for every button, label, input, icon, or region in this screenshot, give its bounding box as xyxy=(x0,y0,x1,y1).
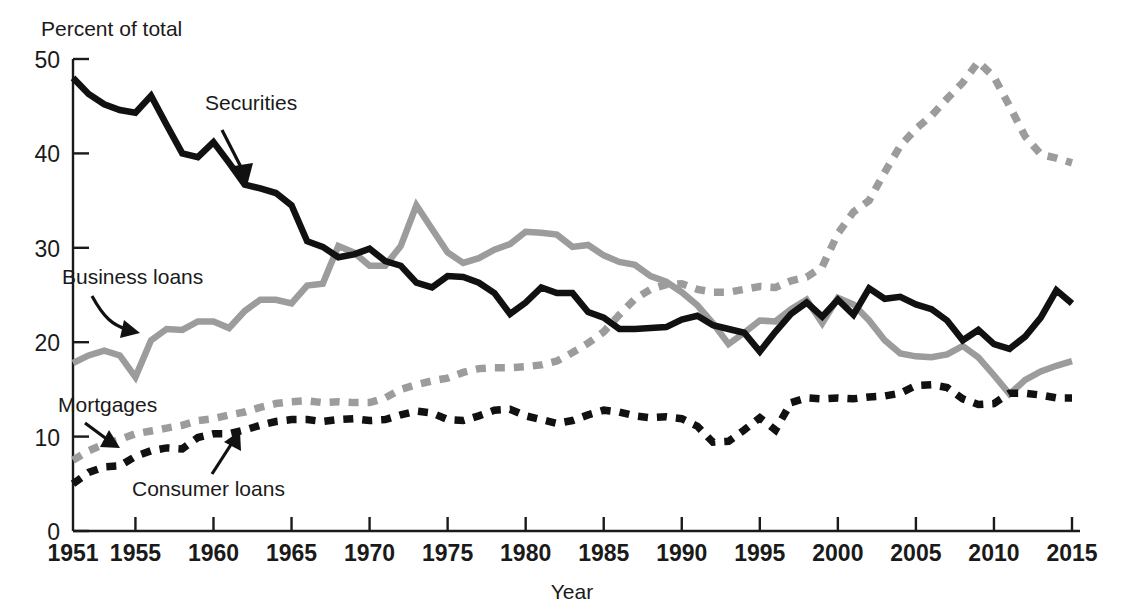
series-line-mortgages xyxy=(73,62,1072,460)
annotation-label-consumer-loans: Consumer loans xyxy=(132,477,285,500)
y-tick-label: 30 xyxy=(34,236,60,262)
x-tick-label: 1960 xyxy=(188,540,239,566)
x-tick-label: 2005 xyxy=(890,540,941,566)
x-tick-label: 1970 xyxy=(344,540,395,566)
x-tick-label: 1980 xyxy=(500,540,551,566)
y-tick-label: 40 xyxy=(34,141,60,167)
business-loans-arrow-stem xyxy=(92,296,126,329)
annotation-label-mortgages: Mortgages xyxy=(58,393,157,416)
x-axis-title: Year xyxy=(551,580,593,603)
x-tick-label: 2015 xyxy=(1046,540,1097,566)
series-line-business-loans xyxy=(73,205,1072,394)
y-tick-label: 50 xyxy=(34,47,60,73)
annotation-label-securities: Securities xyxy=(205,91,297,114)
y-tick-label: 20 xyxy=(34,330,60,356)
x-tick-label: 2010 xyxy=(968,540,1019,566)
x-tick-label: 2000 xyxy=(812,540,863,566)
chart-figure: Percent of total 01020304050 19511955196… xyxy=(0,0,1135,615)
y-axis-title: Percent of total xyxy=(41,17,182,40)
series-line-consumer-loans xyxy=(73,385,1072,484)
x-axis-ticks: 1951195519601965197019751980198519901995… xyxy=(47,517,1097,566)
business-loans-arrow-head xyxy=(120,320,140,338)
x-tick-label: 1965 xyxy=(266,540,317,566)
y-tick-label: 10 xyxy=(34,425,60,451)
data-series-group xyxy=(73,62,1072,484)
x-tick-label: 1975 xyxy=(422,540,473,566)
consumer-loans-arrow-stem xyxy=(212,443,232,474)
x-tick-label: 1951 xyxy=(47,540,98,566)
annotation-arrows xyxy=(85,130,253,474)
x-tick-label: 1990 xyxy=(656,540,707,566)
chart-canvas: Percent of total 01020304050 19511955196… xyxy=(0,0,1135,615)
annotation-labels: SecuritiesBusiness loansMortgagesConsume… xyxy=(58,91,297,500)
x-tick-label: 1995 xyxy=(734,540,785,566)
mortgages-arrow-head xyxy=(100,430,120,448)
x-tick-label: 1985 xyxy=(578,540,629,566)
annotation-label-business-loans: Business loans xyxy=(62,265,203,288)
y-axis-ticks: 01020304050 xyxy=(34,47,89,545)
x-tick-label: 1955 xyxy=(110,540,161,566)
